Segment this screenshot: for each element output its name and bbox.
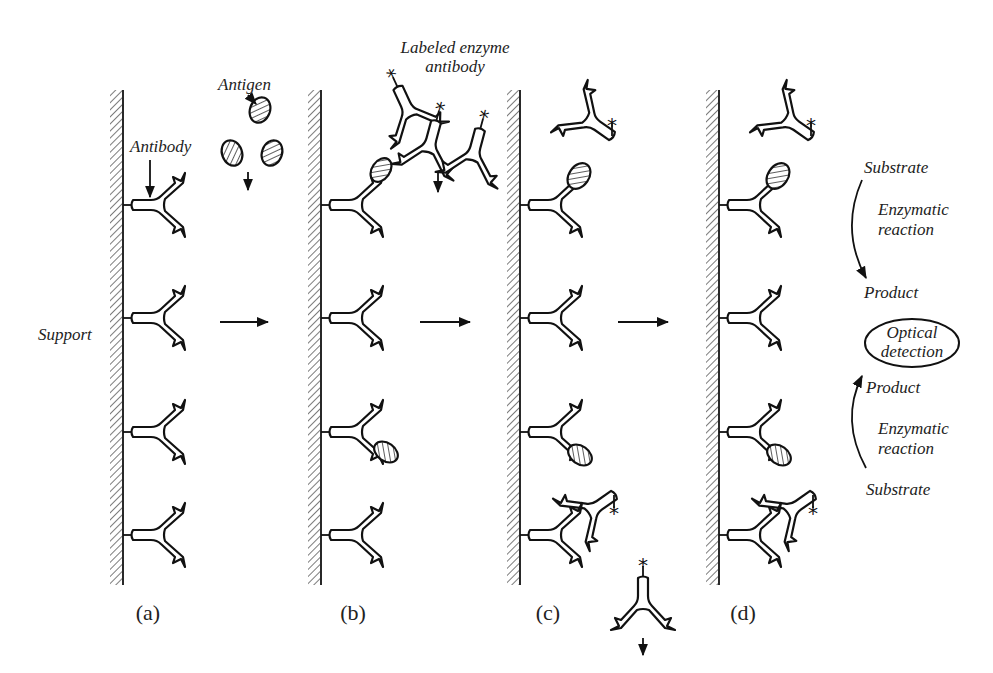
antigen-label: Antigen (217, 75, 271, 94)
enzymatic-top-line2: reaction (878, 220, 934, 239)
washed-labeled-antibody (611, 553, 675, 630)
optical-line2: detection (881, 342, 943, 361)
enzymatic-bottom-line1: Enzymatic (877, 419, 949, 438)
optical-line1: Optical (887, 323, 938, 342)
reaction-arrow-bottom (852, 376, 866, 468)
panel-c-antibodies: * * (520, 80, 634, 567)
enzymatic-top-line1: Enzymatic (877, 200, 949, 219)
free-antigens (218, 94, 286, 168)
support-wall-a (110, 90, 123, 585)
support-wall-b (308, 90, 321, 585)
support-wall-c (507, 90, 520, 585)
caption-d: (d) (730, 600, 756, 625)
panel-a-antibodies (123, 173, 185, 567)
labeled-enzyme-antibody-label-line1: Labeled enzyme (399, 38, 510, 57)
enzymatic-bottom-line2: reaction (878, 439, 934, 458)
svg-text:*: * (806, 113, 816, 137)
caption-c: (c) (536, 600, 560, 625)
product-top-label: Product (863, 283, 919, 302)
reaction-arrow-top (852, 180, 866, 278)
product-bottom-label: Product (865, 378, 921, 397)
caption-b: (b) (340, 600, 366, 625)
svg-text:*: * (607, 113, 617, 137)
svg-text:*: * (609, 501, 619, 525)
svg-text:*: * (808, 501, 818, 525)
elisa-diagram: * Antibody Antigen Support (0, 0, 993, 673)
substrate-bottom-label: Substrate (866, 480, 931, 499)
labeled-enzyme-antibody-label-line2: antibody (425, 57, 485, 76)
antibody-label: Antibody (129, 137, 192, 156)
substrate-top-label: Substrate (864, 158, 929, 177)
caption-a: (a) (136, 600, 160, 625)
support-wall-d (706, 90, 719, 585)
panel-b-antibodies (321, 154, 402, 567)
panel-d-antibodies: * * (719, 80, 833, 567)
support-label: Support (38, 325, 93, 344)
